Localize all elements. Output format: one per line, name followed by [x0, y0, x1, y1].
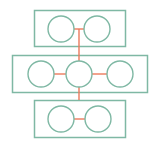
- node-circle-t1: [48, 16, 74, 42]
- node-circle-b2: [85, 106, 111, 132]
- node-circle-b1: [48, 106, 74, 132]
- node-circles: [28, 16, 133, 132]
- node-circle-t2: [84, 16, 110, 42]
- node-circle-m3: [107, 61, 133, 87]
- network-diagram: [0, 0, 158, 149]
- node-circle-m1: [28, 61, 54, 87]
- node-circle-m2: [66, 61, 92, 87]
